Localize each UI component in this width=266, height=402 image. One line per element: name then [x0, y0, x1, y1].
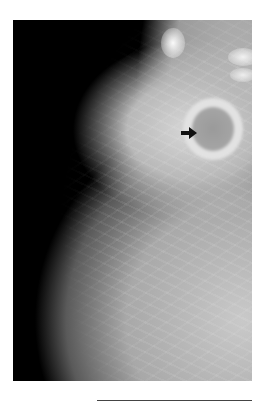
- dense-spot: [230, 68, 252, 82]
- divider-line: [97, 400, 252, 401]
- dense-spot: [228, 48, 252, 66]
- dense-spot: [161, 28, 185, 58]
- mammogram-image: [13, 20, 252, 381]
- tissue-texture: [13, 20, 252, 381]
- arrow-icon: [181, 127, 197, 139]
